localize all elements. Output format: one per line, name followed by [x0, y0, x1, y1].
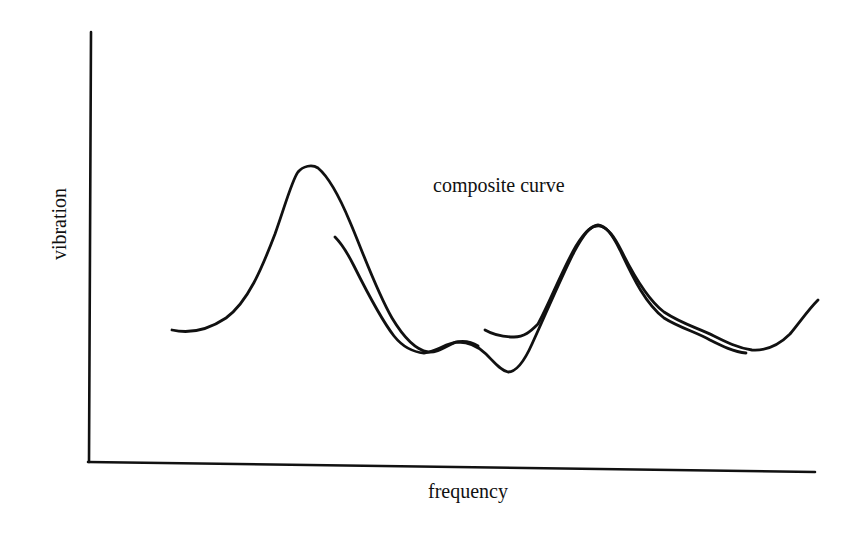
x-axis: [88, 462, 815, 472]
diagram-svg: [0, 0, 850, 533]
x-axis-label: frequency: [428, 481, 508, 501]
diagram-canvas: composite curve frequency vibration: [0, 0, 850, 533]
right-resonance-curve: [485, 226, 818, 350]
composite-curve-label: composite curve: [433, 175, 565, 195]
y-axis-label: vibration: [49, 179, 69, 269]
y-axis: [89, 32, 91, 462]
composite-curve: [335, 225, 746, 372]
